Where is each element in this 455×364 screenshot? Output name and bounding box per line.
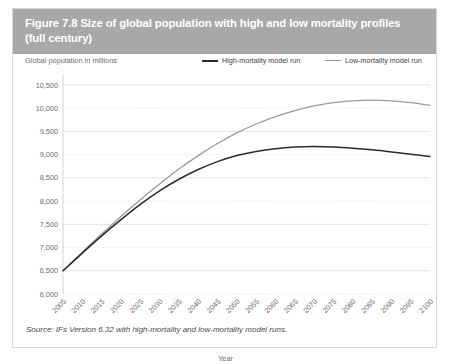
legend-label-high: High-mortality model run (222, 56, 300, 65)
x-tick-label: 2070 (301, 297, 319, 315)
figure-header: Figure 7.8 Size of global population wit… (13, 9, 436, 54)
y-tick-label: 10,500 (36, 81, 58, 90)
x-tick-label: 2090 (378, 297, 396, 315)
x-tick-label: 2010 (69, 297, 87, 315)
x-tick-label: 2080 (340, 297, 358, 315)
x-tick-label: 2100 (417, 297, 435, 315)
x-tick-label: 2065 (282, 297, 300, 315)
plot-area: Global population in millions High-morta… (13, 55, 438, 310)
y-tick-label: 10,000 (36, 104, 58, 113)
figure-card: Figure 7.8 Size of global population wit… (12, 8, 437, 348)
series-line-high-mortality (63, 147, 430, 271)
x-tick-label: 2095 (398, 297, 416, 315)
figure-title-line2: (full century) (25, 31, 424, 46)
x-tick-label: 2045 (205, 297, 223, 315)
y-tick-label: 9,000 (40, 150, 58, 159)
x-tick-label: 2030 (147, 297, 165, 315)
y-tick-label: 6,000 (40, 290, 58, 299)
y-tick-label: 6,500 (40, 266, 58, 275)
y-tick-label: 8,000 (40, 197, 58, 206)
x-tick-label: 2025 (127, 297, 145, 315)
source-note: Source: IFs Version 6.32 with high-morta… (26, 325, 287, 334)
series-line-low-mortality (63, 100, 430, 271)
legend-swatch-high-icon (202, 60, 218, 62)
legend-item-high-mortality: High-mortality model run (202, 56, 300, 65)
x-axis-title: Year (13, 354, 438, 363)
line-chart: 10,50010,0009,5009,0008,5008,0007,5007,0… (13, 67, 438, 352)
x-tick-label: 2015 (89, 297, 107, 315)
x-tick-label: 2040 (185, 297, 203, 315)
x-tick-label: 2085 (359, 297, 377, 315)
x-tick-label: 2020 (108, 297, 126, 315)
y-tick-label: 7,000 (40, 243, 58, 252)
y-axis-caption: Global population in millions (25, 56, 117, 65)
y-tick-label: 7,500 (40, 220, 58, 229)
legend-label-low: Low-mortality model run (345, 56, 422, 65)
x-tick-label: 2035 (166, 297, 184, 315)
y-tick-label: 8,500 (40, 173, 58, 182)
x-tick-label: 2005 (50, 297, 68, 315)
legend-swatch-low-icon (325, 60, 341, 61)
figure-title-line1: Figure 7.8 Size of global population wit… (25, 16, 424, 31)
y-tick-label: 9,500 (40, 127, 58, 136)
x-tick-label: 2050 (224, 297, 242, 315)
x-tick-label: 2075 (320, 297, 338, 315)
x-tick-label: 2060 (263, 297, 281, 315)
x-tick-label: 2055 (243, 297, 261, 315)
legend-item-low-mortality: Low-mortality model run (325, 56, 422, 65)
